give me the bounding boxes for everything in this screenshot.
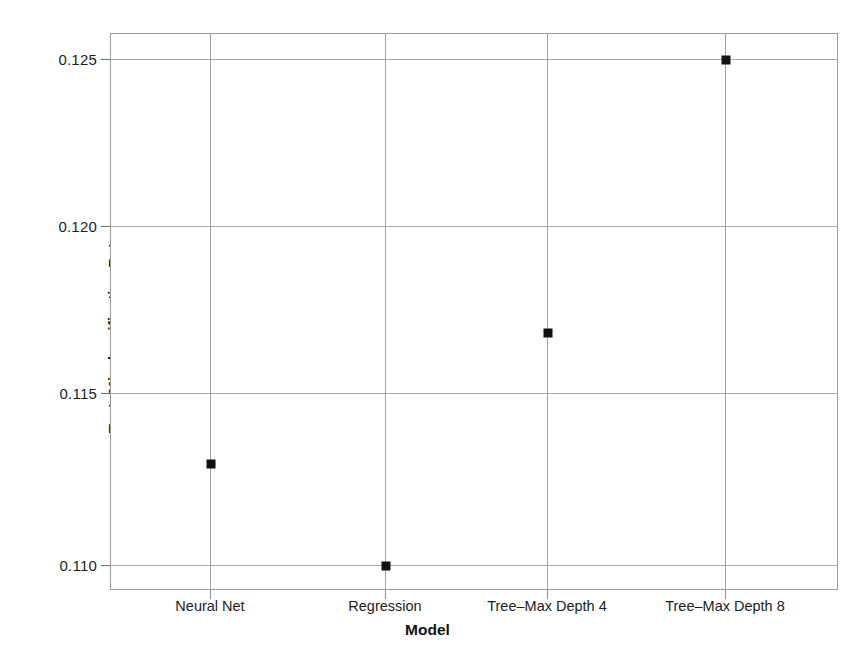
data-point-tree-max-depth-4 [544, 329, 553, 338]
data-point-regression [382, 562, 391, 571]
y-tick-mark-0115 [101, 393, 110, 394]
x-tick-label-tree-max-depth-8: Tree–Max Depth 8 [665, 598, 785, 614]
x-tick-label-tree-max-depth-4: Tree–Max Depth 4 [487, 598, 607, 614]
chart-figure: Test: Misclassification Rate 0.125 0.120… [0, 0, 855, 668]
y-tick-label-0110: 0.110 [60, 557, 97, 574]
data-point-neural-net [207, 460, 216, 469]
gridline-y-0120 [111, 226, 837, 227]
y-tick-mark-0110 [101, 565, 110, 566]
y-tick-label-group: 0.125 0.120 0.115 0.110 [0, 0, 97, 668]
y-tick-label-0120: 0.120 [58, 218, 97, 235]
gridline-x-neural-net [210, 34, 211, 589]
data-point-tree-max-depth-8 [722, 56, 731, 65]
gridline-x-tree-max-depth-8 [725, 34, 726, 589]
plot-area [110, 33, 838, 590]
y-tick-mark-0125 [101, 59, 110, 60]
y-tick-label-0115: 0.115 [60, 385, 97, 402]
y-tick-label-0125: 0.125 [58, 51, 97, 68]
gridline-y-0110 [111, 565, 837, 566]
gridline-x-regression [385, 34, 386, 589]
y-tick-mark-0120 [101, 226, 110, 227]
gridline-y-0115 [111, 393, 837, 394]
gridline-x-tree-max-depth-4 [547, 34, 548, 589]
x-axis-title: Model [0, 621, 855, 639]
x-tick-label-neural-net: Neural Net [175, 598, 244, 614]
x-tick-label-regression: Regression [348, 598, 421, 614]
